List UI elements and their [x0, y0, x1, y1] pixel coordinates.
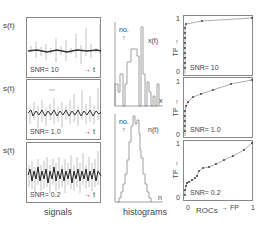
histogram-signal-series-label: x(t)	[148, 37, 158, 44]
histogram-noise-xlabel: n	[158, 194, 162, 201]
arrow-right-icon: →	[84, 128, 91, 135]
signal-time-axis-1: → t	[84, 66, 95, 73]
arrow-right-icon: →	[172, 39, 179, 46]
roc-tick-zero-1: 0	[176, 68, 180, 75]
roc-ylabel-1: TP →	[172, 39, 179, 57]
signal-snr-label-3: SNR= 0.2	[30, 191, 61, 198]
roc-panel-snr02: SNR= 0.2	[183, 140, 253, 201]
rocs-caption: ROCs	[196, 207, 218, 215]
arrow-right-icon: →	[84, 66, 91, 73]
roc-tick-one-3: 1	[176, 140, 180, 147]
signals-caption: signals	[44, 208, 72, 217]
roc-xtick-zero: 0	[186, 204, 190, 211]
histogram-signal-xlabel: x	[159, 97, 163, 104]
roc-tick-one-2: 1	[176, 78, 180, 85]
histogram-signal-ylabel: no.	[119, 26, 129, 33]
arrow-right-icon: →	[84, 191, 91, 198]
histogram-signal: no. ↑ x(t) x	[115, 22, 163, 106]
signal-ylabel-2: s(t)	[3, 85, 15, 93]
histogram-noise: no. ↑ n(t) n	[115, 114, 163, 202]
arrow-right-icon: →	[172, 99, 179, 106]
signal-time-axis-3: → t	[84, 191, 95, 198]
roc-tick-zero-2: 0	[176, 131, 180, 138]
roc-snr-label-2: SNR= 1.0	[190, 126, 221, 133]
roc-snr-label-1: SNR= 10	[190, 64, 219, 71]
signal-ylabel-3: s(t)	[3, 147, 15, 155]
signal-ylabel-1: s(t)	[3, 22, 15, 30]
arrow-up-icon: ↑	[122, 126, 126, 133]
roc-panel-snr1: SNR= 1.0	[183, 77, 253, 138]
histograms-caption: histograms	[123, 208, 167, 217]
signal-panel-snr10: SNR= 10 → t	[26, 17, 101, 78]
roc-snr-label-3: SNR= 0.2	[190, 189, 221, 196]
signal-panel-snr02: SNR= 0.2 → t	[26, 142, 101, 203]
roc-ylabel-2: TP →	[172, 99, 179, 117]
arrow-right-icon: →	[221, 204, 228, 211]
signal-snr-label-1: SNR= 10	[30, 66, 59, 73]
roc-xtick-one: 1	[251, 204, 255, 211]
arrow-right-icon: →	[172, 161, 179, 168]
roc-tick-zero-3: 0	[176, 194, 180, 201]
roc-panel-snr10: SNR= 10	[183, 15, 253, 76]
arrow-up-icon: ↑	[122, 34, 126, 41]
histogram-noise-ylabel: no.	[119, 118, 129, 125]
roc-tick-one-1: 1	[176, 15, 180, 22]
roc-xlabel: → FP	[221, 204, 239, 211]
roc-ylabel-3: TP →	[172, 161, 179, 179]
histogram-noise-series-label: n(t)	[148, 126, 159, 133]
signal-snr-label-2: SNR= 1.0	[30, 128, 61, 135]
signal-panel-snr1: SNR= 1.0 → t	[26, 79, 101, 140]
signal-time-axis-2: → t	[84, 128, 95, 135]
